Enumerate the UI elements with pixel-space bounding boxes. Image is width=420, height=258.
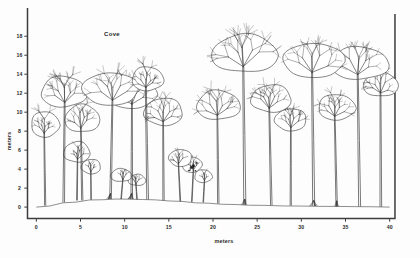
tree-crown — [65, 104, 100, 132]
chart-title: Cove — [104, 31, 120, 37]
profile-plot-canvas — [0, 0, 420, 258]
y-tick-label: 2 — [18, 185, 21, 191]
buttress-root — [311, 200, 314, 206]
x-tick-label: 15 — [166, 224, 172, 230]
tree — [32, 104, 61, 206]
dark-foliage — [189, 168, 191, 169]
y-tick-label: 12 — [17, 90, 23, 96]
x-tick-label: 20 — [210, 224, 216, 230]
tree-trunk — [243, 67, 244, 205]
y-tick-label: 0 — [18, 204, 21, 210]
x-axis-title: meters — [215, 238, 234, 244]
dark-foliage — [188, 170, 191, 172]
tree — [274, 103, 309, 205]
y-axis-title: meters — [6, 132, 12, 150]
tree-crown — [195, 170, 213, 183]
forest-profile-figure: Cove meters meters 024681012141618051015… — [0, 0, 420, 258]
y-tick-label: 16 — [17, 52, 23, 58]
dark-foliage — [195, 170, 197, 171]
x-tick-label: 0 — [35, 224, 38, 230]
x-tick-label: 10 — [122, 224, 128, 230]
tree — [362, 63, 399, 207]
tree — [193, 81, 241, 204]
tree — [314, 87, 357, 207]
tree-crown — [111, 168, 132, 181]
tree-crown — [168, 150, 191, 167]
y-tick-label: 6 — [18, 147, 21, 153]
x-tick-label: 40 — [387, 224, 393, 230]
tree — [143, 91, 182, 200]
tree — [168, 148, 191, 201]
tree — [247, 78, 291, 206]
dark-foliage — [191, 166, 194, 168]
x-tick-label: 35 — [343, 224, 349, 230]
y-tick-label: 10 — [17, 109, 23, 115]
tree — [111, 168, 132, 199]
y-tick-label: 8 — [18, 128, 21, 134]
x-tick-label: 25 — [254, 224, 260, 230]
x-tick-label: 30 — [298, 224, 304, 230]
tree — [195, 169, 213, 202]
tree-crown — [64, 141, 90, 162]
y-tick-label: 4 — [18, 166, 21, 172]
tree-trunk — [217, 115, 218, 203]
dark-foliage — [195, 162, 198, 164]
tree-crown — [274, 109, 306, 131]
tree-crown — [32, 112, 60, 138]
y-tick-label: 18 — [17, 33, 23, 39]
x-tick-label: 5 — [79, 224, 82, 230]
y-tick-label: 14 — [17, 71, 23, 77]
tree-crown — [132, 67, 164, 91]
tree — [81, 159, 100, 199]
tree-trunk — [312, 72, 313, 206]
